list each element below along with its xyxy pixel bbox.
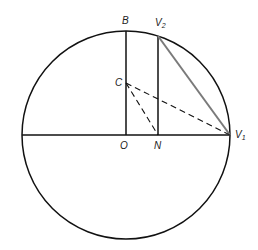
geometry-diagram: B V2 C O N V1	[0, 0, 258, 250]
label-C: C	[115, 77, 123, 88]
label-V2: V2	[155, 17, 166, 29]
segment-CN	[126, 83, 158, 135]
label-N: N	[154, 140, 162, 151]
label-V1: V1	[235, 129, 246, 141]
chord-V2V1	[158, 36, 230, 135]
label-O: O	[120, 140, 128, 151]
label-B: B	[122, 15, 129, 26]
